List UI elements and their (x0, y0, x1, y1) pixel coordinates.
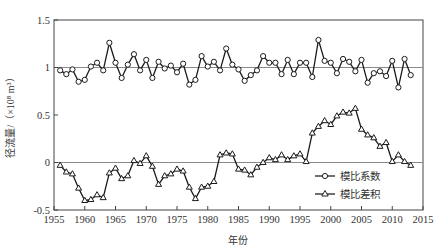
data-point (347, 59, 352, 64)
data-point (352, 105, 358, 110)
data-point (236, 166, 242, 171)
data-point (365, 80, 370, 85)
data-point (322, 58, 327, 63)
data-point (76, 79, 81, 84)
x-tick-label: 2015 (413, 214, 434, 225)
data-point (64, 72, 69, 77)
data-point (384, 73, 389, 78)
data-point (181, 61, 186, 66)
data-point (119, 75, 124, 80)
x-tick-label: 2010 (382, 214, 403, 225)
data-point (174, 166, 180, 171)
data-point (131, 157, 137, 162)
data-point (390, 58, 395, 63)
data-point (125, 173, 131, 178)
data-point (199, 54, 204, 59)
series-cumulative-deviation (57, 105, 414, 202)
series-line (60, 108, 411, 200)
series-ratio-coefficient (58, 37, 414, 90)
data-point (267, 60, 272, 65)
data-point (377, 69, 382, 74)
y-tick-label: 0 (45, 157, 50, 168)
data-point (187, 82, 192, 87)
data-point (396, 85, 401, 90)
data-point (186, 184, 192, 189)
data-point (297, 151, 303, 156)
data-point (359, 57, 364, 62)
data-point (70, 67, 75, 72)
data-point (279, 152, 285, 157)
data-point (113, 165, 119, 170)
data-point (162, 66, 167, 71)
data-point (113, 60, 118, 65)
data-point (395, 152, 401, 157)
y-axis-title: 径流量/（×10⁸ m³） (4, 72, 16, 157)
data-point (310, 74, 315, 79)
data-point (340, 56, 345, 61)
data-point (242, 78, 247, 83)
y-tick-label: 1.5 (37, 15, 50, 26)
x-axis: 1955196019651970197519801985199019952000… (44, 206, 434, 225)
data-point (266, 155, 272, 160)
x-tick-label: 1975 (167, 214, 188, 225)
legend-marker-triangle (322, 191, 328, 197)
data-point (316, 37, 321, 42)
x-tick-label: 2000 (320, 214, 341, 225)
y-tick-label: -0.5 (33, 205, 50, 216)
data-point (279, 72, 284, 77)
x-tick-label: 1965 (105, 214, 126, 225)
data-point (291, 72, 296, 77)
data-point (304, 60, 309, 65)
data-point (94, 192, 100, 197)
y-tick-label: 0.5 (37, 110, 50, 121)
x-tick-label: 1985 (228, 214, 249, 225)
data-point (328, 60, 333, 65)
data-point (192, 195, 198, 200)
data-point (334, 71, 339, 76)
data-point (383, 139, 389, 144)
x-tick-label: 1990 (259, 214, 280, 225)
data-point (143, 153, 149, 158)
data-point (261, 54, 266, 59)
data-point (230, 62, 235, 67)
data-point (408, 73, 413, 78)
data-point (340, 109, 346, 114)
data-point (193, 77, 198, 82)
data-point (138, 68, 143, 73)
x-tick-label: 2005 (351, 214, 372, 225)
data-point (273, 60, 278, 65)
x-tick-label: 1955 (44, 214, 65, 225)
x-tick-label: 1970 (136, 214, 157, 225)
data-point (402, 56, 407, 61)
data-point (88, 64, 93, 69)
data-point (224, 46, 229, 51)
data-point (58, 68, 63, 73)
data-point (353, 69, 358, 74)
data-point (101, 68, 106, 73)
data-point (125, 62, 130, 67)
data-point (174, 70, 179, 75)
data-point (205, 64, 210, 69)
data-point (371, 71, 376, 76)
data-point (156, 59, 161, 64)
data-point (359, 126, 365, 131)
data-point (297, 60, 302, 65)
data-point (94, 60, 99, 65)
x-tick-label: 1995 (290, 214, 311, 225)
data-point (211, 178, 217, 183)
x-axis-title: 年份 (228, 234, 248, 246)
data-point (248, 73, 253, 78)
data-point (322, 118, 328, 123)
x-tick-label: 1980 (197, 214, 218, 225)
data-point (144, 57, 149, 62)
data-point (168, 63, 173, 68)
legend-marker-circle (322, 173, 327, 178)
data-point (223, 150, 229, 155)
data-point (285, 57, 290, 62)
legend: 模比系数 模比差积 (315, 170, 381, 200)
data-point (211, 59, 216, 64)
data-point (82, 77, 87, 82)
data-point (254, 68, 259, 73)
legend-label-ratio: 模比系数 (340, 170, 381, 182)
chart: 1955196019651970197519801985199019952000… (0, 0, 445, 250)
